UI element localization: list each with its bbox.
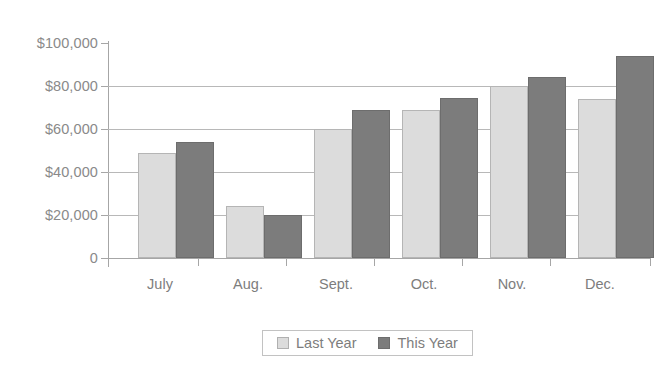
y-axis-label-0: 0 (2, 250, 98, 266)
x-axis-label-oct: Oct. (380, 276, 468, 292)
bar-last-year-oct (402, 110, 440, 258)
bar-this-year-nov (528, 77, 566, 258)
gridline-80000 (108, 86, 650, 87)
x-axis-line (108, 258, 651, 259)
bar-last-year-aug (226, 206, 264, 258)
x-axis-label-aug: Aug. (204, 276, 292, 292)
x-axis-label-july: July (116, 276, 204, 292)
light-gray-swatch-icon (277, 337, 289, 349)
bar-this-year-oct (440, 98, 478, 258)
dark-gray-swatch-icon (378, 337, 390, 349)
y-axis-label-40000: $40,000 (2, 164, 98, 180)
bar-this-year-aug (264, 215, 302, 258)
x-axis-tick-2 (286, 259, 287, 266)
legend-item-this-year[interactable]: This Year (378, 335, 457, 351)
x-axis-label-dec: Dec. (556, 276, 644, 292)
x-axis-tick-5 (550, 259, 551, 266)
y-axis-label-20000: $20,000 (2, 207, 98, 223)
x-axis-tick-1 (198, 259, 199, 266)
legend-label-this-year: This Year (397, 335, 457, 351)
bar-last-year-july (138, 153, 176, 258)
bar-this-year-sept (352, 110, 390, 258)
bar-last-year-sept (314, 129, 352, 258)
bar-last-year-dec (578, 99, 616, 258)
x-axis-tick-3 (374, 259, 375, 266)
plot-area (108, 43, 650, 258)
bar-this-year-july (176, 142, 214, 258)
x-axis-label-sept: Sept. (292, 276, 380, 292)
bar-chart: $100,000 $80,000 $60,000 $40,000 $20,000… (0, 0, 671, 388)
y-axis-labels: $100,000 $80,000 $60,000 $40,000 $20,000… (0, 0, 98, 388)
x-axis-tick-4 (462, 259, 463, 266)
y-axis-label-80000: $80,000 (2, 78, 98, 94)
bar-last-year-nov (490, 86, 528, 258)
x-axis-label-nov: Nov. (468, 276, 556, 292)
y-axis-label-60000: $60,000 (2, 121, 98, 137)
bar-this-year-dec (616, 56, 654, 258)
x-axis-tick-6 (650, 259, 651, 266)
legend-item-last-year[interactable]: Last Year (277, 335, 356, 351)
legend-label-last-year: Last Year (296, 335, 356, 351)
y-axis-label-100000: $100,000 (2, 35, 98, 51)
chart-legend: Last Year This Year (262, 330, 473, 356)
